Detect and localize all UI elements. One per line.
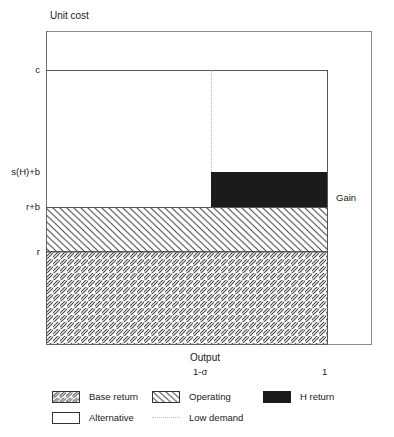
legend-label-low-demand: Low demand	[189, 411, 243, 425]
solid-black-swatch-icon	[263, 391, 291, 403]
legend-label-h-return: H return	[300, 390, 334, 404]
legend-label-operating: Operating	[189, 390, 231, 404]
x-axis-title: Output	[190, 352, 220, 363]
region-base-return	[46, 252, 328, 345]
legend: Base return Operating H return Alternati…	[0, 386, 394, 437]
low-demand-line	[211, 70, 212, 172]
y-axis-title: Unit cost	[50, 10, 89, 21]
dotted-line-icon	[152, 417, 180, 419]
legend-label-base-return: Base return	[89, 390, 138, 404]
hatch-forward-icon	[52, 391, 80, 403]
x-tick-one-minus-sigma: 1-σ	[193, 366, 207, 377]
x-tick-one: 1	[322, 366, 327, 377]
hatch-backward-icon	[152, 391, 180, 403]
empty-box-icon	[52, 412, 80, 424]
region-h-return	[211, 172, 327, 207]
y-tick-c: c	[0, 64, 40, 75]
y-tick-sh-plus-b: s(H)+b	[0, 166, 40, 177]
y-tick-r: r	[0, 246, 40, 257]
c-level-line	[46, 70, 328, 71]
region-operating	[46, 207, 328, 252]
gain-annotation: Gain	[336, 192, 356, 203]
legend-label-alternative: Alternative	[89, 411, 134, 425]
output-1-edge-line	[327, 70, 328, 345]
y-tick-r-plus-b: r+b	[0, 201, 40, 212]
figure-unit-cost-output: Unit cost c	[0, 0, 394, 437]
